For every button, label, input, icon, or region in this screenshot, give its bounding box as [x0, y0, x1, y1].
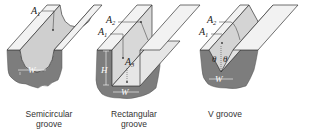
theta-left-label: θ [212, 54, 217, 64]
caption-v-groove: V groove [200, 109, 250, 119]
caption-line: Semicircular [18, 109, 80, 119]
caption-semicircular: Semicircular groove [18, 109, 80, 129]
caption-line: V groove [200, 109, 250, 119]
a2-label: A2 [206, 14, 217, 26]
h-label: H [100, 65, 108, 75]
v-groove-panel: A2 A1 θ θ W [198, 5, 298, 89]
caption-rectangular: Rectangular groove [103, 109, 165, 129]
a1-label: A1 [198, 26, 208, 38]
semicircular-groove-panel: A1 W [7, 5, 102, 88]
a1-label: A1 [97, 26, 107, 38]
caption-line: groove [103, 119, 165, 129]
a1-label: A1 [30, 5, 40, 17]
theta-right-label: θ [223, 54, 228, 64]
caption-line: groove [18, 119, 80, 129]
a2-label: A2 [105, 14, 116, 26]
rectangular-groove-panel: A2 A1 A3 H W [96, 5, 200, 99]
caption-line: Rectangular [103, 109, 165, 119]
